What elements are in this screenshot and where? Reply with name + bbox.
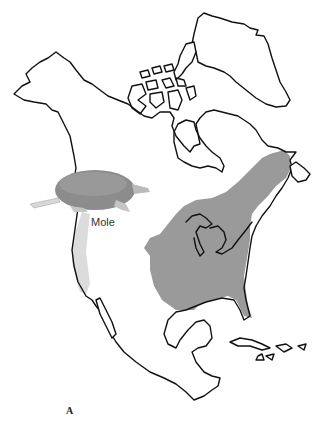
arctic-island [152,66,162,74]
cuba [230,338,270,350]
hudson-bay-coastline [174,120,224,172]
arctic-island [176,78,186,86]
caribbean-island [256,354,264,360]
arctic-island [146,80,158,90]
baja-california [96,298,116,338]
figure-panel-label: A [66,405,73,416]
baffin-island [174,42,196,80]
arctic-island [186,86,196,100]
arctic-island [140,70,150,78]
mole-snout [132,184,150,194]
arctic-island [162,78,174,88]
mole-annotation-label: Mole [91,216,115,228]
mole-tail [30,198,60,208]
western-range-shading [72,212,90,294]
arctic-island [168,90,182,110]
arctic-island [164,64,174,72]
newfoundland [290,162,310,182]
puerto-rico [298,344,306,350]
hispaniola [276,344,292,352]
mole-illustration [30,170,150,212]
eastern-range-shading [144,150,290,318]
greenland [192,13,290,107]
jamaica [266,354,274,360]
arctic-island [150,92,164,108]
mole-back-highlight [59,172,127,196]
arctic-island [128,84,146,114]
north-america-map [0,0,330,428]
range-map-figure: Mole A [0,0,330,428]
